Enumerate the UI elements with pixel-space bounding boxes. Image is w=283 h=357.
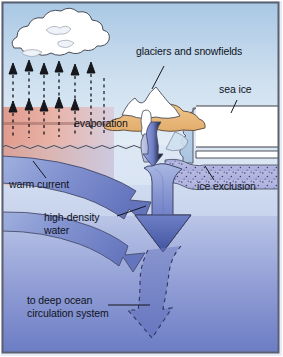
label-glaciers-and-snowfields: glaciers and snowfields: [136, 45, 242, 58]
label-to-deep-ocean-circulation-system: to deep ocean circulation system: [27, 294, 109, 319]
label-warm-current: warm current: [9, 178, 69, 191]
label-high-density-water: high-density water: [44, 211, 99, 236]
label-ice-exclusion: ice exclusion: [197, 180, 256, 193]
ocean-circulation-diagram: glaciers and snowfields sea ice evaporat…: [0, 0, 283, 357]
label-evaporation: evaporation: [74, 117, 128, 130]
label-sea-ice: sea ice: [219, 83, 252, 96]
